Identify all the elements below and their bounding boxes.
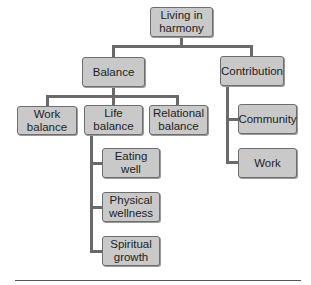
- node-living-in-harmony: Living in harmony: [150, 7, 213, 37]
- node-work-balance: Work balance: [17, 106, 77, 135]
- connector-to-contribution: [250, 45, 253, 56]
- node-physical-wellness: Physical wellness: [102, 192, 160, 222]
- connector-to-eating-well: [90, 162, 102, 165]
- node-spiritual-growth: Spiritual growth: [102, 236, 160, 266]
- bottom-divider: [15, 280, 301, 281]
- connector-to-spiritual-growth: [90, 250, 102, 253]
- connector-to-work-balance: [46, 95, 49, 106]
- node-eating-well: Eating well: [102, 148, 160, 178]
- node-balance: Balance: [82, 57, 145, 87]
- node-community: Community: [238, 104, 297, 134]
- connector-to-work: [226, 161, 238, 164]
- node-relational-balance: Relational balance: [149, 105, 208, 135]
- node-work: Work: [238, 148, 297, 178]
- connector-to-relational-balance: [176, 95, 179, 105]
- connector-contribution-spine: [226, 86, 229, 164]
- connector-to-balance: [112, 45, 115, 57]
- connector-root-bar: [112, 45, 253, 48]
- connector-life-balance-spine: [90, 135, 93, 252]
- connector-to-life-balance: [112, 95, 115, 105]
- connector-to-community: [226, 118, 238, 121]
- node-contribution: Contribution: [220, 56, 284, 86]
- connector-to-physical-wellness: [90, 206, 102, 209]
- node-life-balance: Life balance: [84, 105, 143, 135]
